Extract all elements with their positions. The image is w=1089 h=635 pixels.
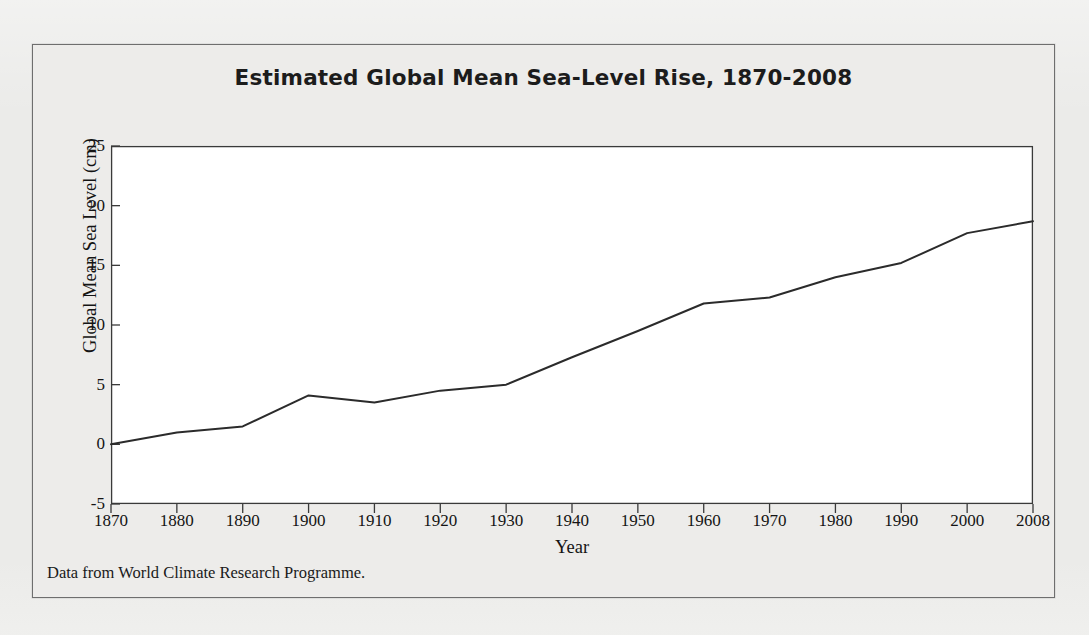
x-tick-label: 1940: [555, 511, 589, 531]
x-tick-label: 1980: [818, 511, 852, 531]
x-tick-label: 2008: [1016, 511, 1050, 531]
scanned-page: Estimated Global Mean Sea-Level Rise, 18…: [0, 0, 1089, 635]
x-tick-label: 2000: [950, 511, 984, 531]
figure-caption: Data from World Climate Research Program…: [47, 563, 365, 583]
x-tick-label: 1910: [357, 511, 391, 531]
chart-title: Estimated Global Mean Sea-Level Rise, 18…: [33, 65, 1054, 90]
x-tick-label: 1880: [160, 511, 194, 531]
x-tick-label: 1900: [292, 511, 326, 531]
x-tick-label: 1990: [884, 511, 918, 531]
x-tick-label: 1920: [423, 511, 457, 531]
axis-frame: [112, 147, 1033, 504]
x-tick-label: 1950: [621, 511, 655, 531]
x-tick-label: 1890: [226, 511, 260, 531]
figure-frame: Estimated Global Mean Sea-Level Rise, 18…: [32, 44, 1055, 598]
chart-svg: [111, 146, 1033, 504]
plot-area: [111, 146, 1033, 504]
x-tick-label: 1930: [489, 511, 523, 531]
y-axis-title: Global Mean Sea Level (cm): [80, 81, 101, 411]
x-tick-label: 1970: [753, 511, 787, 531]
sea-level-line: [111, 221, 1033, 444]
x-tick-label: 1960: [687, 511, 721, 531]
y-tick-label: 0: [97, 434, 106, 454]
x-axis-title: Year: [111, 537, 1033, 558]
y-axis-ticks: [111, 146, 120, 504]
x-tick-label: 1870: [94, 511, 128, 531]
x-axis-tick-labels: 1870188018901900191019201930194019501960…: [111, 511, 1033, 537]
